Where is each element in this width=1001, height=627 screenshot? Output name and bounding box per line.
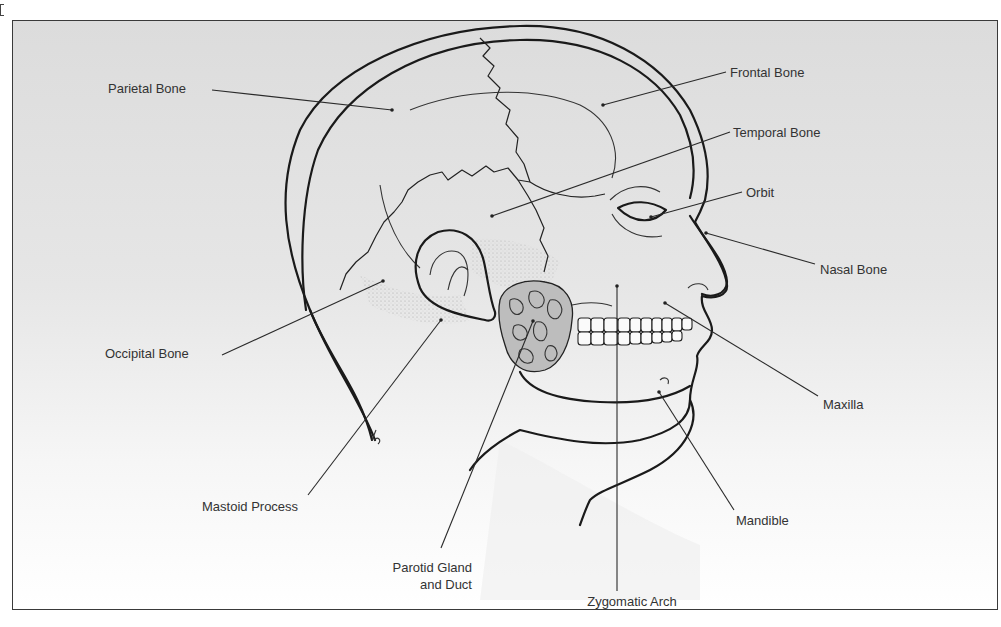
label-mandible: Mandible	[736, 513, 789, 528]
head-shadow	[480, 440, 700, 600]
label-occipital-bone: Occipital Bone	[105, 346, 189, 361]
leader-maxilla	[665, 303, 818, 396]
anatomy-diagram: Parietal Bone Frontal Bone Temporal Bone…	[0, 0, 1001, 627]
leader-nasal-bone	[706, 233, 815, 264]
label-nasal-bone: Nasal Bone	[820, 262, 887, 277]
label-parietal-bone: Parietal Bone	[108, 81, 186, 96]
leader-parietal-bone	[212, 90, 392, 110]
leader-mandible	[659, 392, 734, 510]
teeth	[578, 318, 692, 345]
label-parotid-gland-line2: and Duct	[420, 577, 472, 592]
label-parotid-gland-line1: Parotid Gland	[393, 560, 473, 575]
label-frontal-bone: Frontal Bone	[730, 65, 804, 80]
nose	[688, 216, 727, 296]
leader-orbit	[651, 192, 742, 217]
label-maxilla: Maxilla	[823, 397, 864, 412]
label-orbit: Orbit	[746, 185, 775, 200]
label-temporal-bone: Temporal Bone	[733, 125, 820, 140]
mandible-outline	[520, 372, 690, 402]
label-mastoid-process: Mastoid Process	[202, 499, 299, 514]
label-zygomatic-arch: Zygomatic Arch	[587, 594, 677, 609]
orbit	[610, 187, 666, 237]
